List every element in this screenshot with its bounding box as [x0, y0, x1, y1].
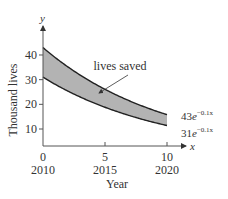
upper-label-base: 43	[181, 110, 193, 122]
y-axis-label: Thousand lives	[6, 63, 20, 136]
x-axis-var: x	[189, 140, 195, 152]
x-ticks: 0201052015102020	[31, 142, 179, 177]
x-tick-year: 2010	[31, 163, 55, 177]
annotation-arrow	[99, 75, 128, 93]
y-tick-label: 40	[25, 48, 37, 62]
y-tick-label: 20	[25, 97, 37, 111]
upper-label-exp: −0.1x	[197, 109, 214, 117]
x-tick-year: 2015	[93, 163, 117, 177]
lower-label-exp: −0.1x	[197, 126, 214, 134]
annotation-lives-saved: lives saved	[94, 59, 147, 73]
lower-label-base: 31	[181, 127, 192, 139]
x-tick-year: 2020	[155, 163, 179, 177]
y-tick-label: 30	[25, 73, 37, 87]
y-axis-var: y	[39, 12, 45, 24]
x-tick-label: 0	[40, 150, 46, 164]
x-tick-label: 10	[161, 150, 173, 164]
lower-curve-label: 31e−0.1x	[181, 126, 214, 139]
x-axis-label: Year	[106, 177, 128, 191]
y-ticks: 10203040	[25, 48, 43, 136]
chart: y x 10203040 0201052015102020 Thousand l…	[0, 0, 228, 199]
x-tick-label: 5	[102, 150, 108, 164]
y-tick-label: 10	[25, 122, 37, 136]
upper-curve-label: 43e−0.1x	[181, 109, 214, 122]
